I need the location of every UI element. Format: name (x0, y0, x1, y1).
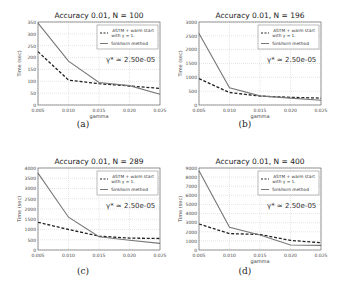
chart-title: Accuracy 0.01, N = 100 (54, 11, 143, 20)
caption-c: (c) (63, 266, 103, 276)
caption-b: (b) (225, 119, 265, 129)
svg-text:1000: 1000 (186, 239, 198, 244)
legend-label-sinkhorn: Sinkhorn method (272, 187, 309, 192)
svg-text:0.020: 0.020 (284, 253, 297, 258)
svg-text:3500: 3500 (25, 176, 37, 181)
legend-label-sinkhorn: Sinkhorn method (272, 41, 309, 46)
svg-text:250: 250 (27, 44, 36, 49)
svg-text:with γ = 1.: with γ = 1. (272, 33, 295, 38)
y-axis-ticks: 050100150200250300350 (27, 20, 36, 108)
svg-text:5000: 5000 (186, 202, 198, 207)
legend-label-sinkhorn: Sinkhorn method (111, 187, 148, 192)
chart-title: Accuracy 0.01, N = 400 (215, 157, 304, 166)
svg-text:6000: 6000 (186, 193, 198, 198)
svg-text:with γ = 1.: with γ = 1. (111, 33, 134, 38)
gamma-star-annotation: γ* ≈ 2.50e-05 (106, 202, 155, 210)
svg-text:0.005: 0.005 (32, 253, 45, 258)
svg-text:500: 500 (27, 238, 36, 243)
y-axis-label: Time (sec) (177, 196, 183, 223)
svg-text:4000: 4000 (186, 211, 198, 216)
svg-text:0.010: 0.010 (62, 253, 75, 258)
legend: ASTM + warm startwith γ = 1.Sinkhorn met… (97, 171, 158, 195)
svg-text:2000: 2000 (186, 47, 198, 52)
svg-text:3000: 3000 (186, 220, 198, 225)
svg-text:with γ = 1.: with γ = 1. (111, 179, 134, 184)
x-axis-ticks: 0.0050.0100.0150.0200.025 (32, 108, 167, 113)
y-axis-label: Time (sec) (16, 50, 22, 77)
svg-text:50: 50 (30, 91, 36, 96)
gamma-star-annotation: γ* ≈ 2.50e-05 (106, 56, 155, 64)
svg-text:0.025: 0.025 (315, 108, 328, 113)
svg-text:0.010: 0.010 (223, 108, 236, 113)
legend-label-sinkhorn: Sinkhorn method (111, 41, 148, 46)
chart-title: Accuracy 0.01, N = 196 (215, 11, 304, 20)
x-axis-ticks: 0.0050.0100.0150.0200.025 (193, 253, 328, 258)
chart-title: Accuracy 0.01, N = 289 (54, 157, 143, 166)
y-axis-ticks: 050010001500200025003000 (186, 20, 198, 108)
svg-text:200: 200 (27, 55, 36, 60)
caption-d: (d) (225, 266, 265, 276)
svg-text:350: 350 (27, 20, 36, 25)
legend: ASTM + warm startwith γ = 1.Sinkhorn met… (258, 171, 319, 195)
svg-text:0.005: 0.005 (193, 108, 206, 113)
svg-text:0.020: 0.020 (123, 253, 136, 258)
svg-text:4000: 4000 (25, 166, 37, 171)
legend: ASTM + warm startwith γ = 1.Sinkhorn met… (258, 25, 319, 49)
x-axis-label: gamma (250, 258, 269, 265)
svg-text:150: 150 (27, 67, 36, 72)
svg-text:0.015: 0.015 (254, 108, 267, 113)
x-axis-ticks: 0.0050.0100.0150.0200.025 (193, 108, 328, 113)
svg-text:0.005: 0.005 (32, 108, 45, 113)
gamma-star-annotation: γ* ≈ 2.50e-05 (267, 202, 316, 210)
svg-text:1000: 1000 (186, 75, 198, 80)
svg-text:7000: 7000 (186, 184, 198, 189)
svg-text:100: 100 (27, 79, 36, 84)
svg-text:0.010: 0.010 (223, 253, 236, 258)
svg-text:0.015: 0.015 (254, 253, 267, 258)
svg-text:2500: 2500 (186, 34, 198, 39)
y-axis-label: Time (sec) (177, 50, 183, 77)
legend: ASTM + warm startwith γ = 1.Sinkhorn met… (97, 25, 158, 49)
svg-text:1000: 1000 (25, 227, 37, 232)
svg-text:3000: 3000 (25, 186, 37, 191)
svg-text:8000: 8000 (186, 175, 198, 180)
svg-text:0.010: 0.010 (62, 108, 75, 113)
y-axis-ticks: 0100020003000400050006000700080009000 (186, 166, 198, 253)
svg-text:500: 500 (188, 89, 197, 94)
svg-text:0.025: 0.025 (315, 253, 328, 258)
y-axis-label: Time (sec) (16, 196, 22, 223)
svg-text:0.015: 0.015 (93, 253, 106, 258)
svg-text:2000: 2000 (25, 207, 37, 212)
svg-text:1500: 1500 (186, 61, 198, 66)
svg-text:9000: 9000 (186, 166, 198, 171)
svg-text:2500: 2500 (25, 197, 37, 202)
svg-text:0.020: 0.020 (123, 108, 136, 113)
caption-a: (a) (63, 119, 103, 129)
y-axis-ticks: 05001000150020002500300035004000 (25, 166, 37, 253)
gamma-star-annotation: γ* ≈ 2.50e-05 (267, 56, 316, 64)
x-axis-ticks: 0.0050.0100.0150.0200.025 (32, 253, 167, 258)
svg-text:with γ = 1.: with γ = 1. (272, 179, 295, 184)
svg-text:3000: 3000 (186, 20, 198, 25)
svg-text:1500: 1500 (25, 217, 37, 222)
svg-text:0.005: 0.005 (193, 253, 206, 258)
svg-text:300: 300 (27, 32, 36, 37)
svg-text:0.020: 0.020 (284, 108, 297, 113)
svg-text:2000: 2000 (186, 230, 198, 235)
svg-text:0.015: 0.015 (93, 108, 106, 113)
